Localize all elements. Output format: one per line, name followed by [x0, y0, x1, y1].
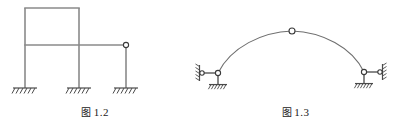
right-wall-hatch-icon: [383, 63, 387, 80]
left-link-pin-icon: [200, 71, 204, 75]
beam-end-hinge-icon: [123, 42, 128, 47]
figure-sheet: 图1.2: [0, 0, 401, 130]
crown-hinge-icon: [289, 28, 295, 34]
frame-members: [24, 8, 126, 88]
right-springing-hinge-icon: [361, 69, 366, 74]
arch-rib-right-half: [292, 31, 364, 72]
figure-1-3-canvas: [190, 0, 401, 104]
arch-rib: [218, 31, 364, 73]
left-ground-hatch-icon: [208, 85, 226, 90]
right-support-assembly: [354, 63, 386, 88]
fixed-support-right: [113, 88, 138, 94]
fixed-support-left: [12, 88, 37, 94]
arch-rib-left-half: [218, 31, 292, 73]
figure-1-3-caption-cjk: 图: [282, 107, 293, 118]
left-support-assembly: [196, 64, 228, 89]
figure-1-2-caption: 图1.2: [0, 104, 190, 119]
left-wall-hatch-icon: [196, 64, 200, 81]
right-link-pin-icon: [378, 70, 382, 74]
right-ground-hatch-icon: [354, 84, 372, 89]
left-springing-hinge-icon: [215, 70, 220, 75]
fixed-support-middle: [66, 88, 91, 94]
figure-1-3-caption: 图1.3: [190, 104, 401, 119]
figure-1-3-caption-number: 1.3: [294, 106, 309, 118]
figure-1-2: 图1.2: [0, 0, 190, 130]
figure-1-2-caption-cjk: 图: [81, 107, 92, 118]
figure-1-2-caption-number: 1.2: [94, 106, 109, 118]
figure-1-2-canvas: [0, 0, 190, 104]
figure-1-3: 图1.3: [190, 0, 401, 130]
